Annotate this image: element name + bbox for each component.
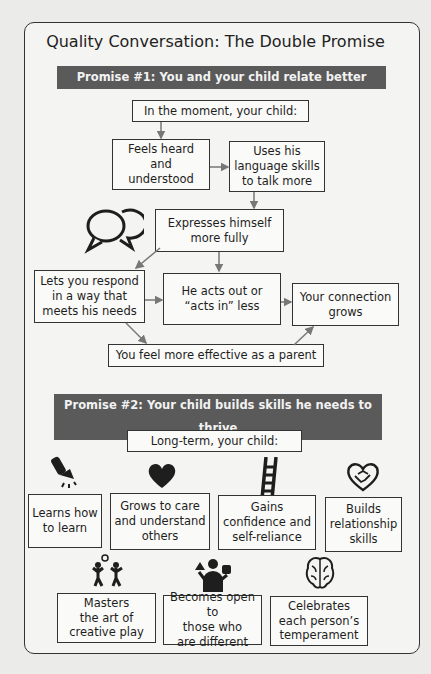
skill-gains-confidence: Gains confidence and self-reliance: [218, 495, 316, 550]
skill-grows-to-care: Grows to care and understand others: [110, 493, 210, 550]
skill-creative-play: Masters the art of creative play: [57, 593, 156, 643]
handshake-heart-icon: [346, 462, 380, 492]
skill-open-to-different: Becomes open to those who are different: [163, 595, 262, 645]
children-playing-icon: [91, 554, 127, 590]
skill-builds-relationship: Builds relationship skills: [325, 497, 402, 552]
long-term-header: Long-term, your child:: [127, 430, 302, 452]
brain-icon: [305, 556, 335, 590]
skill-learns: Learns how to learn: [28, 494, 102, 548]
flashlight-icon: [50, 455, 78, 491]
skill-celebrates-temperament: Celebrates each person’s temperament: [270, 596, 368, 646]
heart-icon: [147, 462, 177, 490]
person-shapes-icon: [193, 558, 233, 592]
ladder-icon: [258, 457, 280, 499]
